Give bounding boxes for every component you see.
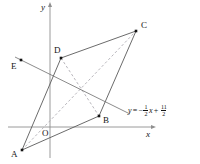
x-axis-arrowhead <box>151 125 156 129</box>
axes-group <box>8 2 156 158</box>
segment-D-C <box>61 31 136 58</box>
equation-equals: = <box>133 107 138 115</box>
point-label-E: E <box>11 62 17 71</box>
geometry-figure: A B C D E x y O y = − 1 2 x + 11 2 <box>0 0 200 164</box>
segment-B-A <box>22 116 99 150</box>
point-label-A: A <box>11 150 18 159</box>
figure-canvas <box>0 0 200 164</box>
diagonal-D-B <box>61 58 99 116</box>
equation-slope-fraction: 1 2 <box>143 104 148 117</box>
equation-lhs: y <box>128 107 132 115</box>
x-axis-label: x <box>146 130 150 139</box>
equation-variable: x <box>149 107 153 115</box>
point-label-D: D <box>54 46 61 55</box>
origin-label: O <box>42 129 49 138</box>
slope-denominator: 2 <box>143 110 148 117</box>
equation-intercept-fraction: 11 2 <box>160 104 168 117</box>
point-label-B: B <box>103 116 109 125</box>
point-dot-D <box>60 57 63 60</box>
point-dot-E <box>20 59 23 62</box>
point-dot-B <box>98 115 101 118</box>
y-axis-arrowhead <box>48 2 52 7</box>
point-dot-C <box>135 30 138 33</box>
equation-plus-sign: + <box>154 107 159 115</box>
line-equation-label: y = − 1 2 x + 11 2 <box>128 104 168 117</box>
intercept-denominator: 2 <box>161 110 166 117</box>
point-label-C: C <box>141 21 147 30</box>
quadrilateral-diagonals <box>22 31 136 150</box>
diagonal-A-C <box>22 31 136 150</box>
point-dot-A <box>21 149 24 152</box>
equation-minus-sign: − <box>138 107 143 115</box>
y-axis-label: y <box>41 3 45 12</box>
